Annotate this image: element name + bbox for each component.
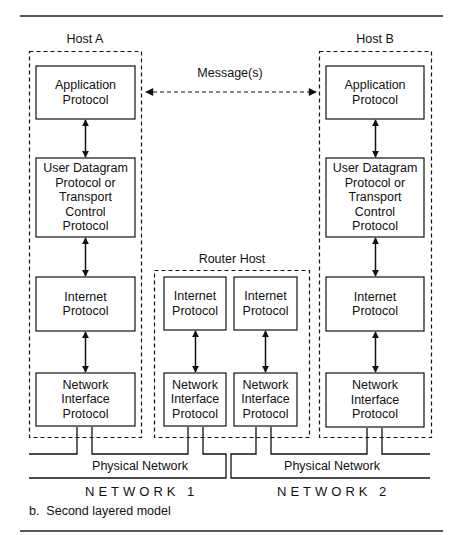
router-internet-label-1: InternetProtocol (164, 277, 226, 330)
host-b-transport-label: User DatagramProtocol orTransportControl… (326, 158, 424, 237)
host-b-application-label: ApplicationProtocol (326, 66, 424, 119)
figure-caption: b. Second layered model (29, 504, 171, 518)
host-a-title: Host A (45, 32, 125, 47)
router-host-title: Router Host (172, 252, 292, 267)
host-a-application-label: ApplicationProtocol (36, 66, 135, 119)
message-label: Message(s) (180, 66, 280, 81)
router-internet-label-2: InternetProtocol (234, 277, 297, 330)
network-2-physical-label: Physical Network (262, 459, 402, 474)
host-b-internet-label: InternetProtocol (326, 277, 424, 331)
host-a-transport-label: User DatagramProtocol orTransportControl… (36, 158, 135, 237)
host-b-network-interface-label: NetworkInterfaceProtocol (326, 373, 424, 427)
router-network-interface-label-2: NetworkInterfaceProtocol (234, 373, 297, 426)
network-2-name: NETWORK 2 (277, 484, 390, 499)
host-a-internet-label: InternetProtocol (36, 277, 135, 331)
host-b-title: Host B (335, 32, 415, 47)
network-1-name: NETWORK 1 (85, 484, 198, 499)
network-1-physical-label: Physical Network (70, 459, 210, 474)
host-a-network-interface-label: NetworkInterfaceProtocol (36, 373, 135, 426)
router-network-interface-label-1: NetworkInterfaceProtocol (164, 373, 226, 426)
